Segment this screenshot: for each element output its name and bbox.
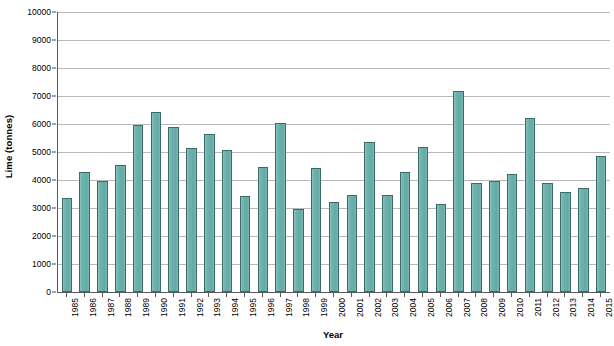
- x-axis-tick-mark: [102, 293, 103, 297]
- x-axis-tick-mark: [262, 293, 263, 297]
- bar-2009: [489, 181, 500, 292]
- bar-1988: [115, 165, 126, 292]
- bar-chart: Lime (tonnes) 01000200030004000500060007…: [0, 0, 614, 346]
- x-axis-tick-1997: 1997: [284, 298, 294, 317]
- bar-2012: [542, 183, 553, 292]
- bar-2007: [453, 91, 464, 292]
- x-axis-tick-2011: 2011: [533, 298, 543, 316]
- x-axis-tick-2014: 2014: [586, 298, 596, 317]
- bar-2000: [329, 202, 340, 292]
- y-axis-tick-mark: [52, 208, 56, 209]
- bar-2013: [560, 192, 571, 292]
- y-axis-title: Lime (tonnes): [0, 0, 18, 292]
- x-axis-tick-2000: 2000: [337, 298, 347, 317]
- x-axis-tick-1990: 1990: [159, 298, 169, 317]
- y-axis-tick-2000: 2000: [32, 231, 51, 241]
- y-axis-tick-mark: [52, 12, 56, 13]
- bars-layer: [58, 12, 610, 292]
- x-axis-tick-mark: [422, 293, 423, 297]
- x-axis-tick-2004: 2004: [408, 298, 418, 317]
- x-axis-tick-mark: [511, 293, 512, 297]
- x-axis-tick-mark: [280, 293, 281, 297]
- x-axis-tick-mark: [66, 293, 67, 297]
- x-axis-tick-mark: [333, 293, 334, 297]
- x-axis-tick-mark: [208, 293, 209, 297]
- y-axis-tick-mark: [52, 292, 56, 293]
- x-axis-tick-mark: [137, 293, 138, 297]
- bar-1998: [293, 209, 304, 292]
- x-axis-tick-1985: 1985: [70, 298, 80, 317]
- x-axis-tick-2008: 2008: [479, 298, 489, 317]
- x-axis-tick-mark: [458, 293, 459, 297]
- y-axis-tick-mark: [52, 68, 56, 69]
- x-axis-tick-1998: 1998: [301, 298, 311, 317]
- x-axis-tick-1989: 1989: [141, 298, 151, 317]
- bar-1987: [97, 181, 108, 292]
- bar-1990: [151, 112, 162, 292]
- x-axis-tick-2007: 2007: [462, 298, 472, 317]
- x-axis-tick-mark: [600, 293, 601, 297]
- bar-2006: [436, 204, 447, 292]
- x-axis-tick-labels: 1985198619871988198919901991199219931994…: [57, 293, 609, 329]
- x-axis-tick-1987: 1987: [106, 298, 116, 317]
- bar-1996: [258, 167, 269, 292]
- y-axis-tick-mark: [52, 96, 56, 97]
- x-axis-tick-mark: [155, 293, 156, 297]
- bar-2003: [382, 195, 393, 292]
- x-axis-title: Year: [57, 329, 609, 340]
- y-axis-tick-10000: 10000: [27, 7, 51, 17]
- y-axis-tick-mark: [52, 236, 56, 237]
- x-axis-tick-mark: [582, 293, 583, 297]
- x-axis-tick-1993: 1993: [212, 298, 222, 317]
- bar-2011: [525, 118, 536, 292]
- bar-1989: [133, 125, 144, 292]
- x-axis-tick-1991: 1991: [177, 298, 187, 317]
- x-axis-tick-2006: 2006: [444, 298, 454, 317]
- x-axis-tick-mark: [475, 293, 476, 297]
- x-axis-tick-mark: [173, 293, 174, 297]
- plot-area: [57, 12, 610, 293]
- y-axis-tick-5000: 5000: [32, 147, 51, 157]
- x-axis-tick-mark: [351, 293, 352, 297]
- bar-2005: [418, 147, 429, 292]
- bar-1986: [79, 172, 90, 292]
- x-axis-tick-1986: 1986: [88, 298, 98, 317]
- bar-1992: [186, 148, 197, 292]
- y-axis-title-label: Lime (tonnes): [4, 114, 15, 178]
- x-axis-tick-1999: 1999: [319, 298, 329, 317]
- x-axis-tick-2010: 2010: [515, 298, 525, 317]
- x-axis-tick-mark: [493, 293, 494, 297]
- x-axis-tick-mark: [440, 293, 441, 297]
- bar-1997: [275, 123, 286, 292]
- x-axis-tick-2013: 2013: [568, 298, 578, 317]
- x-axis-tick-1994: 1994: [230, 298, 240, 317]
- x-axis-tick-1995: 1995: [248, 298, 258, 317]
- x-axis-tick-2002: 2002: [373, 298, 383, 317]
- bar-2004: [400, 172, 411, 292]
- x-axis-tick-mark: [244, 293, 245, 297]
- y-axis-tick-3000: 3000: [32, 203, 51, 213]
- y-axis-tick-6000: 6000: [32, 119, 51, 129]
- bar-1993: [204, 134, 215, 292]
- y-axis-tick-9000: 9000: [32, 35, 51, 45]
- x-axis-tick-mark: [297, 293, 298, 297]
- x-axis-tick-mark: [564, 293, 565, 297]
- x-axis-tick-1996: 1996: [266, 298, 276, 317]
- y-axis-tick-mark: [52, 264, 56, 265]
- x-axis-tick-mark: [84, 293, 85, 297]
- x-axis-tick-2012: 2012: [551, 298, 561, 317]
- x-axis-tick-mark: [386, 293, 387, 297]
- x-axis-tick-1992: 1992: [195, 298, 205, 317]
- x-axis-tick-1988: 1988: [123, 298, 133, 317]
- y-axis-tick-mark: [52, 40, 56, 41]
- bar-1999: [311, 168, 322, 292]
- bar-2002: [364, 142, 375, 292]
- x-axis-tick-mark: [547, 293, 548, 297]
- x-axis-tick-2001: 2001: [355, 298, 365, 317]
- x-axis-tick-2003: 2003: [390, 298, 400, 317]
- x-axis-tick-mark: [119, 293, 120, 297]
- bar-2001: [347, 195, 358, 292]
- y-axis-tick-1000: 1000: [32, 259, 51, 269]
- bar-2014: [578, 188, 589, 292]
- x-axis-tick-mark: [315, 293, 316, 297]
